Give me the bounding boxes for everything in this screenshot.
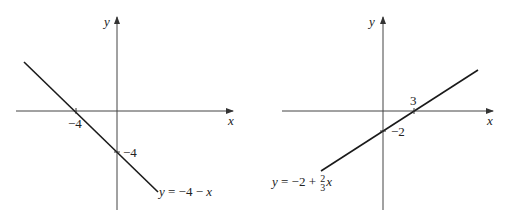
graphs-canvas bbox=[0, 0, 509, 220]
left-graph bbox=[16, 17, 233, 210]
left-x-intercept-label: −4 bbox=[68, 117, 82, 130]
right-y-axis-label: y bbox=[369, 15, 375, 28]
left-y-axis-label: y bbox=[104, 15, 110, 28]
right-line bbox=[321, 70, 478, 171]
right-x-intercept-label: 3 bbox=[410, 94, 417, 107]
left-y-intercept-label: −4 bbox=[123, 146, 137, 159]
left-line bbox=[24, 62, 158, 192]
left-x-axis-label: x bbox=[228, 114, 234, 127]
right-x-axis-label: x bbox=[487, 114, 493, 127]
left-equation: y = −4 − x bbox=[159, 185, 212, 198]
right-y-intercept-label: −2 bbox=[391, 125, 405, 138]
right-equation: y = −2 + 23x bbox=[272, 174, 332, 192]
fraction: 23 bbox=[320, 174, 325, 192]
